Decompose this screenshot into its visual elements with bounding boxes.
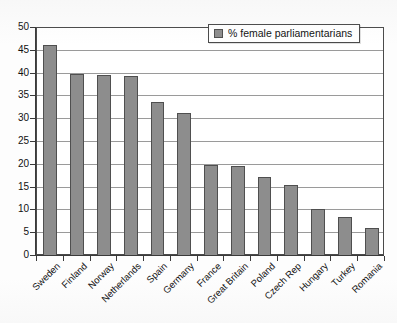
x-tick-mark — [90, 256, 91, 261]
x-tick-mark — [223, 256, 224, 261]
y-tick-label: 35 — [3, 90, 29, 100]
bar — [177, 113, 191, 256]
y-tick-mark — [30, 118, 36, 119]
y-tick-label: 25 — [3, 136, 29, 146]
y-tick-mark — [30, 187, 36, 188]
bar — [365, 228, 379, 256]
x-tick-mark — [36, 256, 37, 261]
legend-label: % female parliamentarians — [228, 28, 352, 39]
bar — [311, 209, 325, 256]
y-axis-labels: 50454035302520151050 — [0, 0, 29, 260]
y-tick-label: 50 — [3, 22, 29, 32]
x-tick-mark — [330, 256, 331, 261]
y-tick-label: 40 — [3, 68, 29, 78]
y-tick-label: 20 — [3, 159, 29, 169]
bar — [231, 166, 245, 256]
x-tick-mark — [143, 256, 144, 261]
y-tick-label: 0 — [3, 250, 29, 260]
x-tick-mark — [277, 256, 278, 261]
y-tick-mark — [30, 209, 36, 210]
bar — [97, 75, 111, 256]
bar — [43, 45, 57, 256]
x-tick-mark — [170, 256, 171, 261]
bar — [151, 102, 165, 256]
x-tick-label: Hungary — [298, 261, 330, 293]
y-tick-mark — [30, 27, 36, 28]
y-tick-label: 15 — [3, 182, 29, 192]
bar — [284, 185, 298, 256]
gridline — [37, 50, 383, 51]
y-tick-mark — [30, 141, 36, 142]
x-tick-mark — [197, 256, 198, 261]
gridline — [37, 118, 383, 119]
gridline — [37, 73, 383, 74]
x-axis-line — [35, 255, 384, 256]
x-tick-label: Finland — [60, 261, 89, 290]
bar-chart: 50454035302520151050 SwedenFinlandNorway… — [0, 0, 397, 323]
bar — [124, 76, 138, 256]
y-tick-label: 5 — [3, 227, 29, 237]
x-tick-label: Sweden — [31, 261, 62, 292]
y-tick-label: 45 — [3, 45, 29, 55]
legend-swatch-icon — [214, 29, 223, 38]
y-tick-label: 30 — [3, 113, 29, 123]
x-tick-mark — [384, 256, 385, 261]
y-tick-label: 10 — [3, 204, 29, 214]
x-tick-mark — [304, 256, 305, 261]
x-tick-mark — [116, 256, 117, 261]
y-tick-mark — [30, 50, 36, 51]
bar — [338, 217, 352, 256]
chart-legend: % female parliamentarians — [208, 24, 360, 43]
y-tick-mark — [30, 232, 36, 233]
bar — [204, 165, 218, 256]
y-tick-mark — [30, 95, 36, 96]
x-tick-mark — [63, 256, 64, 261]
bar — [70, 74, 84, 256]
bar — [258, 177, 272, 256]
y-tick-mark — [30, 73, 36, 74]
gridline — [37, 141, 383, 142]
gridline — [37, 95, 383, 96]
x-tick-mark — [250, 256, 251, 261]
x-tick-mark — [357, 256, 358, 261]
y-tick-mark — [30, 164, 36, 165]
plot-area — [36, 27, 384, 255]
